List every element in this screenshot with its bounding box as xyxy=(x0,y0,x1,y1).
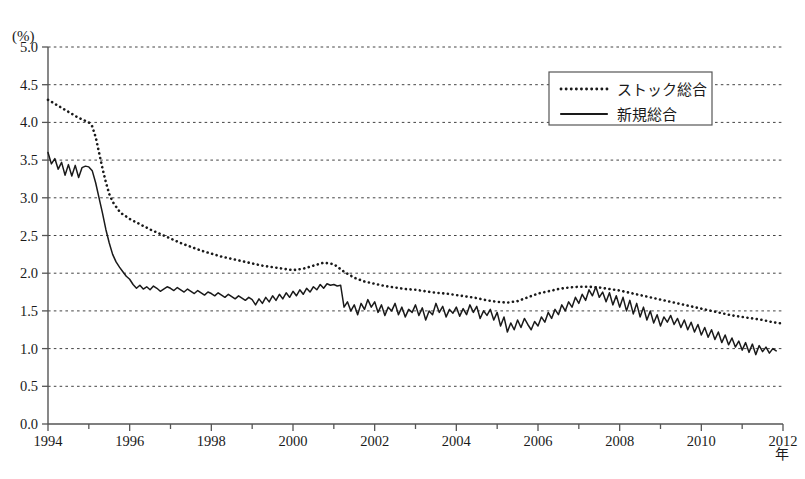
y-tick-label: 2.0 xyxy=(20,265,38,281)
chart-figure: (%) 年 0.00.51.01.52.02.53.03.54.04.55.01… xyxy=(0,0,805,479)
legend-label-2: 新規総合 xyxy=(617,106,677,123)
x-tick-label: 2002 xyxy=(360,433,389,449)
y-tick-label: 1.0 xyxy=(20,341,38,357)
x-tick-label: 1994 xyxy=(34,433,64,449)
x-tick-label: 2008 xyxy=(605,433,634,449)
x-tick-label: 2012 xyxy=(769,433,798,449)
y-tick-label: 0.0 xyxy=(20,416,38,432)
x-tick-label: 2006 xyxy=(524,433,553,449)
line-chart-canvas: 0.00.51.01.52.02.53.03.54.04.55.01994199… xyxy=(0,0,805,479)
x-tick-label: 1998 xyxy=(197,433,226,449)
legend-label-1: ストック総合 xyxy=(617,81,707,98)
series-paths xyxy=(48,100,783,355)
series-line-2 xyxy=(48,153,776,355)
y-tick-label: 1.5 xyxy=(20,303,38,319)
x-tick-label: 2004 xyxy=(442,433,472,449)
y-tick-label: 2.5 xyxy=(20,228,38,244)
y-tick-label: 5.0 xyxy=(20,39,38,55)
y-tick-label: 3.0 xyxy=(20,190,38,206)
chart-legend: ストック総合新規総合 xyxy=(549,72,712,125)
y-tick-label: 4.0 xyxy=(20,114,38,130)
y-tick-label: 0.5 xyxy=(20,378,38,394)
y-tick-label: 4.5 xyxy=(20,77,38,93)
x-tick-label: 1996 xyxy=(115,433,144,449)
x-tick-label: 2000 xyxy=(279,433,308,449)
y-tick-label: 3.5 xyxy=(20,152,38,168)
x-tick-label: 2010 xyxy=(687,433,716,449)
